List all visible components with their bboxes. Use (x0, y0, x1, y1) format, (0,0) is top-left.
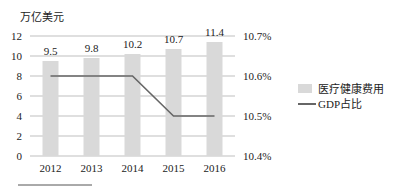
legend-swatch-bar (298, 84, 312, 93)
left-axis-unit-label: 万亿美元 (20, 11, 64, 23)
bar (207, 42, 223, 156)
bar (166, 49, 182, 156)
data-label: 10.2 (123, 38, 142, 50)
right-axis-tick-label: 10.5% (243, 110, 271, 122)
chart: 9.59.810.210.711.4 024681012 10.4%10.5%1… (0, 0, 418, 190)
bar (125, 54, 141, 156)
x-axis-tick-label: 2014 (122, 162, 145, 174)
data-label: 10.7 (164, 33, 184, 45)
bar (84, 58, 100, 156)
left-axis: 024681012 (11, 30, 23, 162)
right-axis: 10.4%10.5%10.6%10.7% (243, 30, 271, 162)
left-axis-tick-label: 8 (17, 70, 23, 82)
right-axis-tick-label: 10.4% (243, 150, 271, 162)
left-axis-tick-label: 0 (17, 150, 23, 162)
left-axis-tick-label: 6 (17, 90, 23, 102)
right-axis-tick-label: 10.7% (243, 30, 271, 42)
x-axis: 20122013201420152016 (40, 162, 227, 174)
left-axis-tick-label: 2 (17, 130, 23, 142)
legend: 医疗健康费用 GDP占比 (298, 82, 384, 110)
data-label: 9.5 (44, 45, 58, 57)
x-axis-tick-label: 2013 (81, 162, 104, 174)
legend-label-line: GDP占比 (318, 97, 362, 110)
data-labels: 9.59.810.210.711.4 (44, 26, 225, 57)
left-axis-tick-label: 10 (11, 50, 23, 62)
data-label: 9.8 (85, 42, 99, 54)
left-axis-tick-label: 12 (11, 30, 22, 42)
data-label: 11.4 (205, 26, 224, 38)
legend-label-bar: 医疗健康费用 (318, 82, 384, 95)
left-axis-tick-label: 4 (17, 110, 23, 122)
bars (43, 42, 223, 156)
x-axis-tick-label: 2012 (40, 162, 62, 174)
x-axis-tick-label: 2015 (163, 162, 186, 174)
right-axis-tick-label: 10.6% (243, 70, 271, 82)
x-axis-tick-label: 2016 (204, 162, 227, 174)
